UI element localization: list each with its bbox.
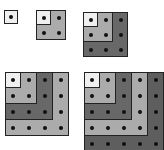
layer-border-4 [5, 72, 69, 136]
layer-border-3 [83, 12, 128, 57]
square-figure-5 [84, 72, 164, 150]
square-figure-4 [5, 72, 69, 136]
layer-border-5 [84, 72, 164, 150]
layer-border-1 [4, 10, 18, 24]
square-figure-3 [83, 12, 128, 57]
layer-border-2 [36, 10, 66, 40]
square-figure-2 [36, 10, 66, 40]
square-figure-1 [4, 10, 18, 24]
